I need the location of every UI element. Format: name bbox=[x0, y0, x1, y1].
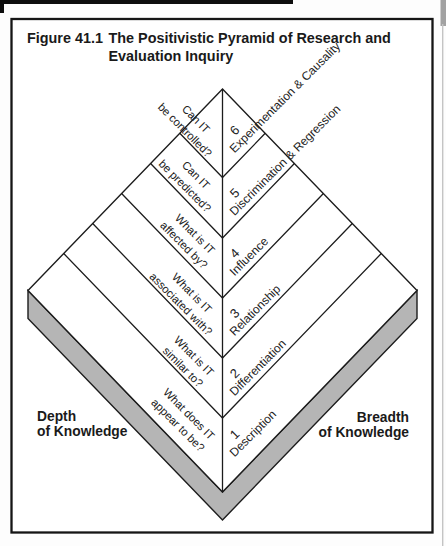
breadth-label-line2: of Knowledge bbox=[319, 425, 410, 440]
top-scan-bar-left-edge bbox=[0, 0, 4, 13]
breadth-label-line1: Breadth bbox=[357, 410, 409, 425]
figure-label: Figure 41.1 bbox=[27, 30, 103, 46]
figure-title-line1: The Positivistic Pyramid of Research and bbox=[109, 30, 391, 46]
depth-label-line1: Depth bbox=[37, 409, 76, 424]
page-edge-artifact-top bbox=[441, 0, 446, 26]
page-edge-artifact-line bbox=[442, 24, 443, 546]
depth-label-line2: of Knowledge bbox=[37, 424, 128, 439]
scanned-figure-page: Figure 41.1 The Positivistic Pyramid of … bbox=[0, 0, 446, 546]
figure-title-line2: Evaluation Inquiry bbox=[109, 48, 234, 64]
top-scan-bar bbox=[0, 0, 293, 4]
